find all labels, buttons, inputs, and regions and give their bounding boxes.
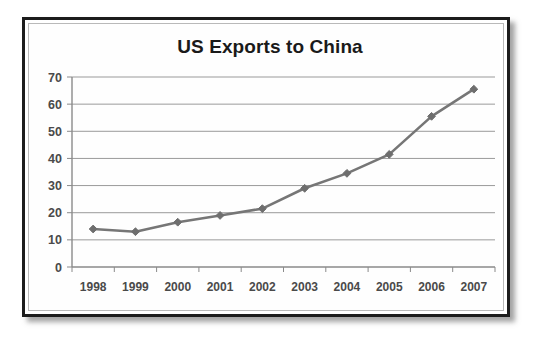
x-axis-tick-label: 1998 [80,280,107,294]
x-axis-tick-label: 2007 [460,280,487,294]
data-point-marker [174,218,182,226]
x-axis-tick-label: 2005 [376,280,403,294]
x-axis-tick-label: 2001 [207,280,234,294]
screenshot-root: US Exports to China 010203040506070 1998… [0,0,539,343]
y-axis-labels-group: 010203040506070 [48,71,62,275]
y-axis-ticks-group [67,77,72,267]
x-axis-ticks-group [72,267,495,272]
y-axis-tick-label: 70 [48,71,62,85]
data-point-marker [132,228,140,236]
x-axis-tick-label: 2006 [418,280,445,294]
line-chart-plot: 010203040506070 199819992000200120022003… [29,24,511,318]
y-axis-tick-label: 40 [48,152,62,166]
axis-lines-group [72,77,495,267]
x-axis-tick-label: 2000 [164,280,191,294]
y-axis-tick-label: 20 [48,206,62,220]
x-axis-tick-label: 2002 [249,280,276,294]
chart-frame-inner-border: US Exports to China 010203040506070 1998… [28,23,504,311]
y-axis-tick-label: 50 [48,125,62,139]
chart-canvas: US Exports to China 010203040506070 1998… [29,24,511,318]
data-point-marker [89,225,97,233]
chart-frame: US Exports to China 010203040506070 1998… [22,17,510,317]
data-series-line [93,89,474,232]
gridlines-group [72,77,495,240]
data-point-marker [343,169,351,177]
x-axis-tick-label: 2003 [291,280,318,294]
x-axis-tick-label: 2004 [334,280,361,294]
series-line [93,89,474,232]
y-axis-tick-label: 60 [48,98,62,112]
y-axis-tick-label: 0 [55,261,62,275]
y-axis-tick-label: 30 [48,179,62,193]
y-axis-tick-label: 10 [48,233,62,247]
x-axis-labels-group: 1998199920002001200220032004200520062007 [80,280,488,294]
x-axis-tick-label: 1999 [122,280,149,294]
